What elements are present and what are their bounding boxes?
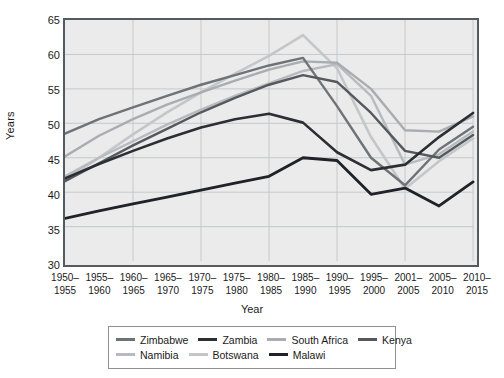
x-tick-label: 1980–1985 <box>257 272 285 297</box>
x-tick-label: 1970–1975 <box>188 272 216 297</box>
x-tick-label-line: 2000 <box>360 285 388 298</box>
x-tick-label-line: 1960 <box>85 285 113 298</box>
x-tick-label-line: 1955 <box>51 285 79 298</box>
x-tick-label-line: 1955– <box>85 272 113 285</box>
x-tick-label-line: 1970 <box>154 285 182 298</box>
x-tick-label-line: 1995– <box>360 272 388 285</box>
legend-label: Malawi <box>293 349 326 361</box>
legend-swatch-icon <box>116 353 135 356</box>
legend-swatch-icon <box>269 353 288 356</box>
legend-row: ZimbabweZambiaSouth AfricaKenya <box>116 332 388 347</box>
x-tick-label-line: 2005– <box>429 272 457 285</box>
y-tick-label: 40 <box>26 190 60 201</box>
x-tick-label-line: 1950– <box>51 272 79 285</box>
x-tick-label: 1975–1980 <box>223 272 251 297</box>
x-tick-label-line: 2001– <box>394 272 422 285</box>
x-tick-label: 1990–1995 <box>326 272 354 297</box>
x-tick-label-line: 2010 <box>429 285 457 298</box>
y-tick-label: 60 <box>26 50 60 61</box>
plot-canvas <box>65 20 477 265</box>
x-tick-label-line: 1995 <box>326 285 354 298</box>
legend-item-zimbabwe[interactable]: Zimbabwe <box>116 334 188 346</box>
legend-label: Namibia <box>140 349 179 361</box>
x-tick-label-line: 1975 <box>188 285 216 298</box>
legend-item-south-africa[interactable]: South Africa <box>267 334 348 346</box>
plot-area <box>63 18 479 267</box>
x-tick-label-line: 1985 <box>257 285 285 298</box>
x-tick-label-line: 2010– <box>463 272 491 285</box>
x-tick-label-line: 1980 <box>223 285 251 298</box>
x-tick-label: 1955–1960 <box>85 272 113 297</box>
y-tick-label: 35 <box>26 225 60 236</box>
line-chart: Years 6560555045403530 1950–19551955–196… <box>0 0 504 378</box>
legend-swatch-icon <box>116 338 135 341</box>
legend-item-botswana[interactable]: Botswana <box>189 349 259 361</box>
x-tick-label: 1960–1965 <box>120 272 148 297</box>
y-tick-label: 55 <box>26 85 60 96</box>
y-axis-title: Years <box>4 111 16 140</box>
legend-label: South Africa <box>291 334 348 346</box>
x-tick-label-line: 1990– <box>326 272 354 285</box>
x-tick-label: 1965–1970 <box>154 272 182 297</box>
x-tick-label-line: 1970– <box>188 272 216 285</box>
x-tick-label-line: 1965 <box>120 285 148 298</box>
x-tick-label: 1985–1990 <box>291 272 319 297</box>
y-tick-label: 45 <box>26 155 60 166</box>
y-tick-label: 30 <box>26 260 60 271</box>
x-tick-label: 2010–2015 <box>463 272 491 297</box>
x-tick-label: 1950–1955 <box>51 272 79 297</box>
chart-legend: ZimbabweZambiaSouth AfricaKenya NamibiaB… <box>108 326 396 369</box>
y-axis: Years 6560555045403530 <box>20 0 60 378</box>
x-tick-label: 1995–2000 <box>360 272 388 297</box>
legend-item-kenya[interactable]: Kenya <box>358 334 412 346</box>
x-tick-label-line: 2015 <box>463 285 491 298</box>
legend-item-namibia[interactable]: Namibia <box>116 349 179 361</box>
legend-label: Botswana <box>213 349 259 361</box>
legend-row: NamibiaBotswanaMalawi <box>116 347 388 362</box>
y-tick-label: 50 <box>26 120 60 131</box>
x-tick-label-line: 1985– <box>291 272 319 285</box>
x-tick-label-line: 1960– <box>120 272 148 285</box>
legend-swatch-icon <box>267 338 286 341</box>
legend-swatch-icon <box>189 353 208 356</box>
x-tick-label-line: 1975– <box>223 272 251 285</box>
legend-swatch-icon <box>358 338 377 341</box>
x-tick-label-line: 1980– <box>257 272 285 285</box>
legend-label: Kenya <box>382 334 412 346</box>
x-tick-label-line: 1990 <box>291 285 319 298</box>
x-tick-label: 2005–2010 <box>429 272 457 297</box>
x-axis-title: Year <box>0 303 504 315</box>
x-tick-label-line: 2005 <box>394 285 422 298</box>
x-tick-label-line: 1965– <box>154 272 182 285</box>
legend-item-malawi[interactable]: Malawi <box>269 349 326 361</box>
x-tick-label: 2001–2005 <box>394 272 422 297</box>
y-tick-label: 65 <box>26 15 60 26</box>
legend-label: Zimbabwe <box>140 334 188 346</box>
legend-label: Zambia <box>222 334 257 346</box>
legend-item-zambia[interactable]: Zambia <box>198 334 257 346</box>
legend-swatch-icon <box>198 338 217 341</box>
